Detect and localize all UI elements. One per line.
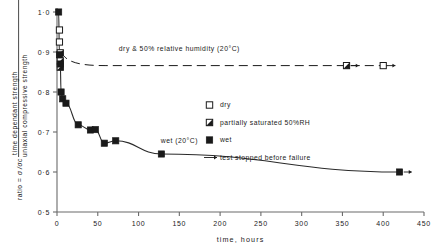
arrow-test-stopped-0-2 (387, 64, 395, 68)
legend-marker-wet (206, 137, 212, 143)
data-point-wet-11-glyph (158, 151, 164, 157)
y-tick-label-0·8: 0·8 (38, 89, 50, 96)
y-tick-label-1·0: 1·0 (38, 9, 50, 16)
arrow-test-stopped-2-12-head (409, 170, 412, 174)
data-point-wet-3-glyph (58, 89, 64, 95)
data-point-dry-2 (380, 63, 386, 69)
data-point-wet-8-glyph (92, 127, 98, 133)
data-point-wet-0-glyph (56, 9, 62, 15)
data-point-wet-12-glyph (396, 169, 402, 175)
y-tick-label-0·9: 0·9 (38, 49, 50, 56)
legend-marker-dry (206, 102, 212, 108)
y-tick-label-0·5: 0·5 (38, 209, 50, 216)
data-point-wet-2 (57, 61, 63, 67)
data-point-wet-1-glyph (56, 52, 62, 58)
y-axis-denominator: uniaxial compressive strength (21, 54, 29, 157)
data-point-dry-0-glyph (56, 27, 62, 33)
legend-label-partially-saturated-50-rh: partially saturated 50%RH (220, 119, 310, 127)
annotation-dry-curve-label: dry & 50% relative humidity (20°C) (119, 45, 240, 53)
data-point-dry-1 (56, 39, 62, 45)
legend-label-dry: dry (220, 101, 231, 109)
data-point-wet-1 (56, 52, 62, 58)
data-point-dry-1-glyph (56, 39, 62, 45)
x-tick-label-450: 450 (417, 220, 431, 227)
data-point-wet-9-glyph (101, 140, 107, 146)
data-point-wet-2-glyph (57, 61, 63, 67)
data-point-wet-11 (158, 151, 164, 157)
y-axis-sigma-symbol: σ (16, 170, 23, 175)
data-point-wet-3 (58, 89, 64, 95)
data-point-wet-5-glyph (63, 100, 69, 106)
data-point-wet-10-glyph (113, 138, 119, 144)
data-point-wet-5 (63, 100, 69, 106)
x-tick-label-200: 200 (213, 220, 227, 227)
data-point-wet-0 (56, 9, 62, 15)
arrow-test-stopped-1-3 (351, 64, 359, 68)
wet-trend-curve (59, 12, 400, 172)
legend-label-wet: wet (219, 136, 232, 143)
y-axis-numerator: time dependant strength (11, 71, 19, 155)
data-point-partially-saturated-50-rh-3 (343, 63, 349, 69)
legend-marker-wet-glyph (206, 137, 212, 143)
legend-label-test-stopped-before-failure: test stopped before failure (220, 154, 311, 162)
x-tick-label-100: 100 (132, 220, 146, 227)
x-tick-label-250: 250 (254, 220, 268, 227)
x-tick-label-150: 150 (172, 220, 186, 227)
x-axis-title: time, hours (217, 235, 265, 244)
arrow-test-stopped-2-12 (404, 170, 412, 174)
annotation-wet-curve-label: wet (20°C) (160, 137, 198, 145)
data-point-wet-10 (113, 138, 119, 144)
data-point-wet-6-glyph (75, 122, 81, 128)
y-tick-label-0·6: 0·6 (38, 169, 50, 176)
data-point-wet-9 (101, 140, 107, 146)
arrow-test-stopped-1-3-head (356, 64, 359, 68)
arrow-test-stopped-0-2-head (392, 64, 395, 68)
y-axis-ratio-prefix: ratio = (16, 178, 23, 200)
data-point-dry-0 (56, 27, 62, 33)
legend-marker-partially-saturated-50-rh (206, 119, 212, 125)
data-point-wet-8 (92, 127, 98, 133)
x-tick-label-400: 400 (376, 220, 390, 227)
data-point-wet-6 (75, 122, 81, 128)
y-axis-title-group: ratio =σ/σctime dependant strengthuniaxi… (11, 0, 29, 200)
x-tick-label-350: 350 (336, 220, 350, 227)
x-tick-label-50: 50 (93, 220, 102, 227)
strength-vs-time-chart: 0·50·60·70·80·91·00501001502002503003504… (0, 0, 437, 251)
y-axis-sigma-c-symbol: /σc (16, 158, 23, 170)
data-point-wet-12 (396, 169, 402, 175)
y-tick-label-0·7: 0·7 (38, 129, 50, 136)
figure-container: 0·50·60·70·80·91·00501001502002503003504… (0, 0, 437, 251)
legend-marker-dry-glyph (206, 102, 212, 108)
x-tick-label-0: 0 (55, 220, 60, 227)
data-point-dry-2-glyph (380, 63, 386, 69)
x-tick-label-300: 300 (295, 220, 309, 227)
